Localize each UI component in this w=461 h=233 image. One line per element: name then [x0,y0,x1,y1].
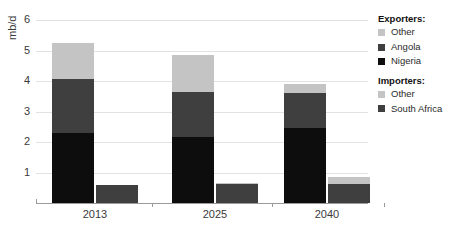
legend-heading-exporters: Exporters: [378,14,461,24]
y-tick-label-1: 1 [0,167,30,178]
legend-swatch-icon [378,29,385,36]
bar-segment-nigeria [172,137,214,203]
bar-segment-other [52,43,94,80]
bar-importers-2040 [328,177,370,203]
y-tick-label-5: 5 [0,45,30,56]
bar-segment-nigeria [52,133,94,203]
x-axis-tick-1 [272,203,273,207]
legend-item-label: Other [391,89,415,99]
legend-item-label: Other [391,27,415,37]
y-tick-label-4: 4 [0,75,30,86]
bar-exporters-2040 [284,84,326,203]
x-tick-label-2013: 2013 [60,209,130,220]
bar-segment-other [172,55,214,92]
x-axis-tick-0 [152,203,153,207]
y-axis-origin-tick [36,199,37,204]
y-tick-label-3: 3 [0,106,30,117]
bar-segment-south-africa [216,184,258,203]
chart-legend: Exporters: OtherAngolaNigeria Importers:… [378,14,461,118]
bar-importers-2013 [96,185,138,203]
y-tick-label-6: 6 [0,14,30,25]
legend-item-label: Angola [391,42,421,52]
legend-swatch-icon [378,91,385,98]
stacked-bar-chart: mb/d 123456 201320252040 Exporters: Othe… [0,0,461,233]
bar-segment-angola [52,79,94,132]
x-tick-label-2025: 2025 [180,209,250,220]
bar-exporters-2013 [52,43,94,203]
legend-heading-importers: Importers: [378,76,461,86]
x-tick-label-2040: 2040 [292,209,362,220]
legend-item-other-importers[interactable]: Other [378,89,461,99]
bar-segment-nigeria [284,128,326,203]
legend-item-nigeria-exporters[interactable]: Nigeria [378,56,461,66]
bar-segment-angola [172,92,214,138]
legend-swatch-icon [378,58,385,65]
y-tick-label-2: 2 [0,136,30,147]
legend-item-label: South Africa [391,104,442,114]
x-axis-tick-2 [384,203,385,207]
bar-exporters-2025 [172,55,214,203]
bar-segment-other [284,84,326,93]
legend-item-label: Nigeria [391,56,421,66]
legend-item-angola-exporters[interactable]: Angola [378,42,461,52]
bar-segment-south-africa [328,184,370,203]
legend-item-other-exporters[interactable]: Other [378,27,461,37]
bar-segment-south-africa [96,185,138,203]
bar-importers-2025 [216,183,258,203]
legend-group-exporters: OtherAngolaNigeria [378,27,461,66]
x-axis-line [36,203,368,204]
legend-swatch-icon [378,44,385,51]
legend-item-south-africa-importers[interactable]: South Africa [378,104,461,114]
legend-swatch-icon [378,105,385,112]
legend-group-importers: OtherSouth Africa [378,89,461,114]
bar-segment-other [328,177,370,184]
plot-area [36,14,366,203]
bar-segment-angola [284,93,326,128]
